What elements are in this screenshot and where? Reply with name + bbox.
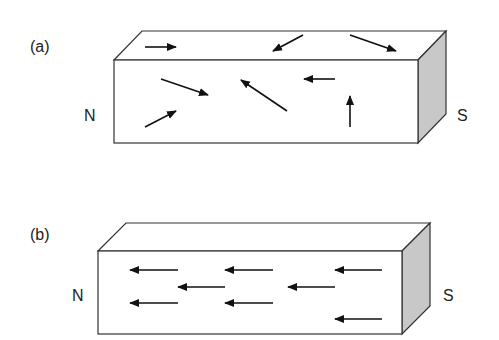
north-pole-label-a: N: [84, 107, 96, 124]
top-face: [114, 31, 446, 60]
panel-b: (b) N S: [30, 223, 454, 334]
bar-magnet-b: [98, 223, 430, 334]
panel-a-label: (a): [30, 38, 50, 55]
panel-b-label: (b): [30, 226, 50, 243]
north-pole-label-b: N: [72, 287, 84, 304]
front-face: [98, 251, 402, 334]
top-face: [98, 223, 430, 251]
front-face: [114, 60, 418, 143]
south-pole-label-b: S: [443, 287, 454, 304]
magnetic-domains-diagram: (a) N S (b) N S: [0, 0, 499, 340]
panel-a: (a) N S: [30, 31, 468, 143]
south-pole-label-a: S: [457, 107, 468, 124]
